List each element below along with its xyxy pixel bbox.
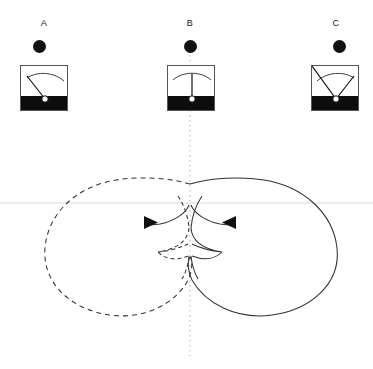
upper-right-minor-lobe [191, 196, 202, 228]
meter-b-label: B [170, 18, 210, 28]
meter-a-face [21, 66, 68, 111]
meter-a-needle [27, 76, 45, 99]
meter-c-source-dot [333, 40, 346, 53]
meter-a-gauge [20, 65, 68, 111]
meter-a-source-dot [33, 40, 46, 53]
meter-c-needle-placeholder [312, 66, 336, 99]
meter-b-face [168, 66, 215, 111]
meter-c-needle [336, 76, 354, 99]
meter-a-label: A [24, 18, 64, 28]
meter-b-pivot [189, 96, 195, 102]
left-major-lobe [45, 178, 192, 316]
arrow-left-icon [144, 216, 158, 229]
minor-lobe-upper-right [191, 228, 222, 252]
minor-lobe-lower-right [192, 252, 222, 259]
meter-c-face [312, 66, 359, 111]
arrow-right-icon [222, 216, 236, 229]
meter-c-pivot [333, 96, 339, 102]
minor-lobe-lower-left [158, 252, 188, 259]
meter-c-gauge [311, 65, 359, 111]
meter-a-pivot [42, 96, 48, 102]
meter-a-scale-arc [27, 73, 64, 81]
meter-c-label: C [316, 18, 356, 28]
upper-left-minor-lobe [178, 196, 189, 228]
radiation-pattern-figure [0, 0, 373, 369]
meter-b-gauge [167, 65, 215, 111]
meter-b-source-dot [184, 40, 197, 53]
minor-lobe-upper-left [158, 228, 189, 252]
diagram-canvas: A B C [0, 0, 373, 369]
right-major-lobe [188, 178, 337, 316]
